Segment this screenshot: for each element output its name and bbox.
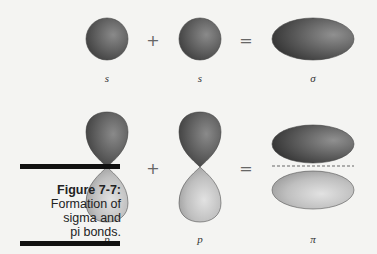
figure-caption: Figure 7-7: Formation of sigma and pi bo… <box>8 183 121 239</box>
caption-line-1: Formation of <box>8 197 121 211</box>
label-sigma: σ <box>310 72 315 84</box>
plus-sign-pi: + <box>146 159 159 178</box>
caption-bottom-rule <box>20 241 120 246</box>
equals-sign-sigma: = <box>239 31 252 50</box>
s-orbital-1 <box>86 18 128 60</box>
pi-orbital <box>272 125 354 209</box>
plus-sign-sigma: + <box>146 31 159 50</box>
sigma-orbital <box>272 18 354 60</box>
caption-line-3: pi bonds. <box>8 225 121 239</box>
p-orbital-2 <box>179 112 221 222</box>
caption-line-2: sigma and <box>8 211 121 225</box>
equals-sign-pi: = <box>239 159 252 178</box>
label-pi: π <box>310 233 316 245</box>
s-orbital-2 <box>179 18 221 60</box>
caption-top-rule <box>20 164 120 169</box>
label-s-2: s <box>198 72 202 84</box>
label-p-2: p <box>197 233 203 245</box>
figure-number: Figure 7-7: <box>8 183 121 197</box>
label-s-1: s <box>105 72 109 84</box>
